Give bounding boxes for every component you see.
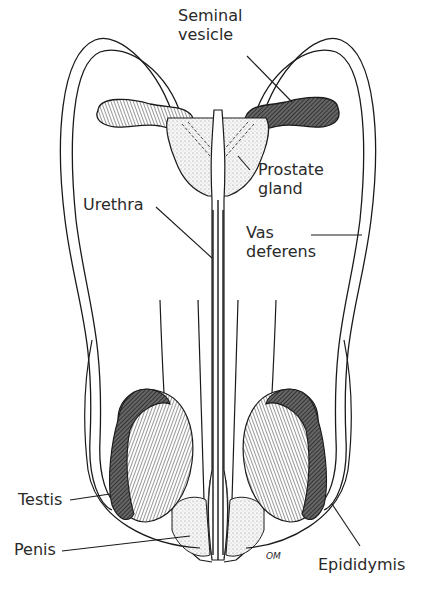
artist-signature: OM [266, 547, 281, 566]
label-seminal-vesicle: Seminal vesicle [178, 6, 242, 44]
label-vas-deferens: Vas deferens [246, 223, 316, 261]
urethra [208, 110, 228, 560]
label-prostate-gland: Prostate gland [258, 160, 324, 198]
label-urethra: Urethra [83, 195, 144, 214]
label-penis: Penis [14, 540, 56, 559]
label-testis: Testis [18, 490, 62, 509]
label-epididymis: Epididymis [318, 555, 405, 574]
anatomy-illustration [0, 0, 436, 598]
